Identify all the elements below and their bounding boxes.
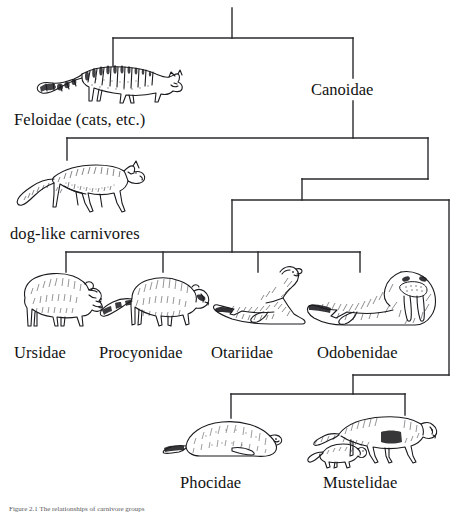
seal-illustration <box>160 414 285 464</box>
node-label-canoidae: Canoidae <box>311 82 373 99</box>
raccoon-illustration <box>98 272 218 334</box>
bear-illustration <box>13 270 108 335</box>
figure-canvas: Feloidae (cats, etc.) <box>0 0 462 513</box>
taxon-label-odobenidae: Odobenidae <box>317 345 398 362</box>
walrus-illustration <box>305 262 440 337</box>
cat-illustration <box>30 58 190 110</box>
taxon-label-otariidae: Otariidae <box>211 345 273 362</box>
taxon-label-doglike-carnivores: dog-like carnivores <box>10 226 140 243</box>
taxon-label-feloidae: Feloidae (cats, etc.) <box>14 112 145 129</box>
taxon-label-phocidae: Phocidae <box>180 475 241 492</box>
sea-lion-illustration <box>210 262 315 334</box>
fox-illustration <box>14 155 152 217</box>
figure-caption: Figure 2.1 The relationships of carnivor… <box>9 505 144 513</box>
weasel-illustration <box>305 408 445 470</box>
taxon-label-ursidae: Ursidae <box>14 345 66 362</box>
taxon-label-procyonidae: Procyonidae <box>99 345 183 362</box>
taxon-label-mustelidae: Mustelidae <box>323 475 397 492</box>
